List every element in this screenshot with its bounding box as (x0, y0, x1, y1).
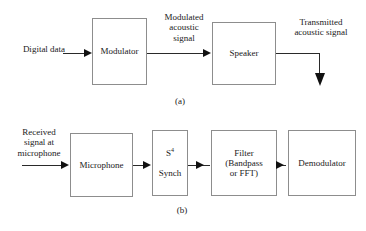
connector-modulator-to-speaker (147, 53, 205, 54)
block-diagram-figure: Digital data Modulator Modulated acousti… (0, 0, 366, 231)
block-microphone-label: Microphone (79, 160, 125, 170)
arrowhead-into-demodulator (276, 161, 284, 169)
block-modulator-label: Modulator (100, 46, 140, 56)
connector-speaker-output-vertical (319, 53, 320, 75)
block-filter[interactable]: Filter (Bandpass or FFT) (211, 130, 277, 196)
block-speaker-label: Speaker (229, 48, 260, 58)
block-filter-label: Filter (Bandpass or FFT) (224, 148, 264, 178)
block-s4-synch-label: Synch (159, 168, 182, 178)
received-signal-label: Received signal at microphone (2, 127, 76, 158)
block-demodulator[interactable]: Demodulator (288, 130, 356, 196)
arrowhead-into-synch (143, 161, 151, 169)
connector-speaker-output-horizontal (276, 53, 320, 54)
block-s4-synch-symbol: S4 (166, 148, 174, 158)
block-s4-synch[interactable]: S4 Synch (152, 130, 188, 196)
block-microphone[interactable]: Microphone (70, 133, 133, 197)
caption-a: (a) (160, 96, 200, 106)
arrowhead-into-filter (196, 161, 204, 169)
modulated-acoustic-signal-label: Modulated acoustic signal (150, 12, 218, 43)
arrowhead-into-speaker (203, 49, 211, 57)
block-s4-synch-symbol-superscript: 4 (171, 147, 174, 153)
caption-b: (b) (162, 205, 202, 215)
block-demodulator-label: Demodulator (297, 158, 347, 168)
block-speaker[interactable]: Speaker (212, 22, 276, 85)
arrowhead-into-microphone (61, 161, 69, 169)
arrowhead-transmitted-output (315, 73, 325, 86)
connector-input-to-microphone (22, 165, 64, 166)
arrowhead-into-modulator (84, 49, 92, 57)
block-modulator[interactable]: Modulator (92, 18, 147, 85)
transmitted-acoustic-signal-label: Transmitted acoustic signal (278, 17, 364, 38)
